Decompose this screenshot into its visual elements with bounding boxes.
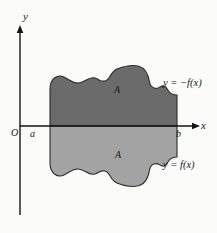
y-axis-arrowhead [17,25,24,33]
figure-canvas: y x O a b A A y = −f(x) y = f(x) [0,0,217,233]
origin-label: O [11,128,18,138]
right-bound-label-b: b [176,129,181,139]
x-axis-arrowhead [192,123,200,130]
lower-region-shape [50,126,177,187]
y-axis-label: y [23,11,28,22]
lower-curve-equation-label: y = f(x) [163,160,195,171]
upper-curve-equation-label: y = −f(x) [163,78,202,89]
lower-region-label-a: A [115,150,121,160]
figure-svg [0,0,217,233]
upper-region-shape [50,66,177,127]
x-axis-label: x [201,120,206,131]
left-bound-label-a: a [30,129,35,139]
upper-region-label-a: A [114,85,120,95]
